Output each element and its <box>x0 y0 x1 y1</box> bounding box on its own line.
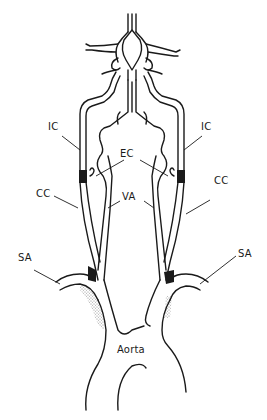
right-carotid-block <box>177 170 185 183</box>
left-carotid-block <box>79 170 87 183</box>
label-va: VA <box>122 192 135 202</box>
cerebral-arteries <box>86 14 180 80</box>
subclavian-arteries <box>56 266 208 300</box>
leader-lines <box>34 136 236 284</box>
label-sa-left: SA <box>18 253 32 263</box>
label-sa-right: SA <box>238 249 252 259</box>
vertebral-arteries <box>97 80 166 280</box>
right-stippled-region <box>164 296 172 318</box>
label-aorta: Aorta <box>117 345 145 355</box>
label-cc-left: CC <box>36 189 50 199</box>
label-ic-left: IC <box>48 122 58 132</box>
label-ic-right: IC <box>201 122 211 132</box>
label-ec: EC <box>120 149 134 159</box>
artery-diagram <box>0 0 267 420</box>
right-subclavian-block <box>164 270 174 284</box>
label-cc-right: CC <box>214 176 228 186</box>
